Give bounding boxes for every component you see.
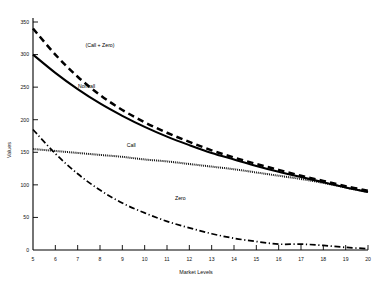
y-tick-label: 100 <box>21 182 30 188</box>
x-tick-label: 18 <box>320 256 326 262</box>
x-tick-label: 10 <box>142 256 148 262</box>
series-line-noncall <box>33 55 368 192</box>
data-series-group <box>33 29 368 249</box>
series-label-zero: Zero <box>175 195 186 201</box>
chart-figure: 050100150200250300350 567891011121314151… <box>0 0 381 287</box>
x-tick-label: 13 <box>209 256 215 262</box>
x-tick-label: 6 <box>54 256 57 262</box>
y-axis-ticks: 050100150200250300350 <box>21 19 39 253</box>
x-axis-ticks: 567891011121314151617181920 <box>32 245 371 262</box>
line-chart-canvas: 050100150200250300350 567891011121314151… <box>0 0 381 287</box>
x-tick-label: 17 <box>298 256 304 262</box>
y-tick-label: 50 <box>23 214 29 220</box>
series-line-call-zero <box>33 29 368 191</box>
x-axis-title: Market Levels <box>179 269 213 275</box>
x-tick-label: 7 <box>76 256 79 262</box>
y-tick-label: 200 <box>21 117 30 123</box>
x-tick-label: 15 <box>253 256 259 262</box>
x-tick-label: 9 <box>121 256 124 262</box>
x-tick-label: 5 <box>32 256 35 262</box>
y-axis-title: Values <box>6 142 12 158</box>
y-tick-label: 300 <box>21 51 30 57</box>
series-line-call <box>33 149 368 192</box>
y-tick-label: 350 <box>21 19 30 25</box>
x-tick-label: 12 <box>186 256 192 262</box>
series-label-call: Call <box>127 142 136 148</box>
y-tick-label: 150 <box>21 149 30 155</box>
series-label-noncall: Noncall <box>78 83 95 89</box>
plot-axes <box>33 18 368 250</box>
x-tick-label: 14 <box>231 256 237 262</box>
x-tick-label: 16 <box>276 256 282 262</box>
y-tick-label: 0 <box>26 247 29 253</box>
x-tick-label: 8 <box>99 256 102 262</box>
x-tick-label: 11 <box>164 256 169 262</box>
series-label-call-zero: (Call + Zero) <box>86 42 115 48</box>
x-tick-label: 20 <box>365 256 371 262</box>
x-tick-label: 19 <box>343 256 349 262</box>
y-tick-label: 250 <box>21 84 30 90</box>
